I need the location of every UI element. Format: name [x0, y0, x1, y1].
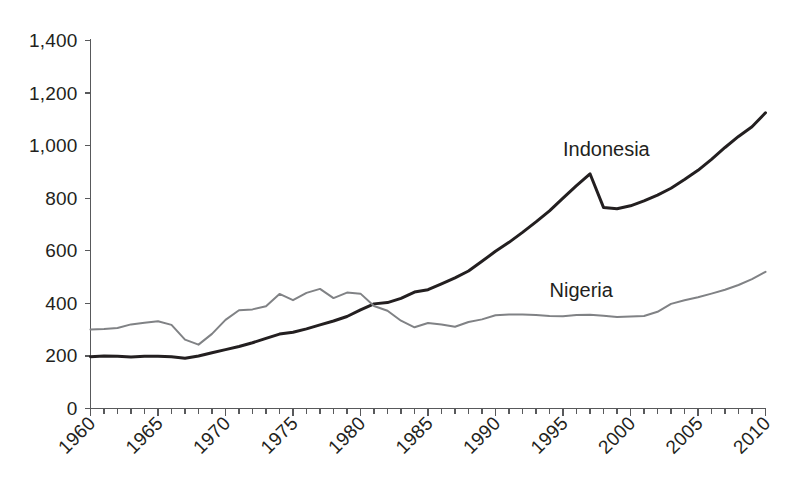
x-tick-label: 2005: [662, 412, 707, 457]
x-tick-label: 1980: [324, 412, 369, 457]
y-tick-label: 200: [45, 345, 77, 366]
series-label-nigeria: Nigeria: [550, 279, 614, 301]
x-tick-label: 1995: [527, 412, 572, 457]
y-axis-tick-labels: 02004006008001,0001,2001,400: [29, 30, 78, 419]
x-tick-label: 1960: [54, 412, 99, 457]
y-tick-label: 0: [67, 398, 78, 419]
data-series-group: [91, 113, 766, 359]
series-annotations: IndonesiaNigeria: [550, 138, 651, 301]
series-line-indonesia: [91, 113, 766, 359]
series-label-indonesia: Indonesia: [563, 138, 651, 160]
line-chart: 02004006008001,0001,2001,400 19601965197…: [0, 0, 805, 487]
x-tick-label: 2000: [594, 412, 639, 457]
y-axis-ticks: [85, 41, 91, 409]
x-tick-label: 1970: [189, 412, 234, 457]
y-tick-label: 800: [45, 188, 77, 209]
y-tick-label: 1,200: [29, 83, 78, 104]
y-tick-label: 1,400: [29, 30, 78, 51]
series-line-nigeria: [91, 272, 766, 345]
x-tick-label: 2010: [729, 412, 774, 457]
x-tick-label: 1985: [392, 412, 437, 457]
x-axis-ticks: [91, 409, 766, 416]
axes: [91, 39, 766, 409]
x-axis-tick-labels: 1960196519701975198019851990199520002005…: [54, 412, 774, 457]
y-tick-label: 600: [45, 240, 77, 261]
x-tick-label: 1990: [459, 412, 504, 457]
x-tick-label: 1965: [122, 412, 167, 457]
chart-container: 02004006008001,0001,2001,400 19601965197…: [0, 0, 805, 487]
y-tick-label: 1,000: [29, 135, 78, 156]
x-tick-label: 1975: [257, 412, 302, 457]
y-tick-label: 400: [45, 293, 77, 314]
